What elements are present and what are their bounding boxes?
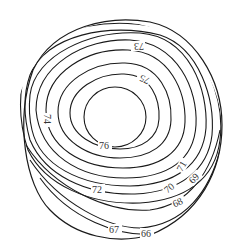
svg-text:67: 67 [109, 224, 119, 235]
contour-73 [46, 50, 185, 168]
svg-text:73: 73 [134, 41, 144, 52]
svg-text:74: 74 [42, 114, 53, 124]
contour-label-71: 71 [174, 156, 191, 174]
contour-72 [36, 40, 196, 178]
svg-text:72: 72 [92, 184, 102, 195]
contour-label-67: 67 [108, 224, 122, 235]
svg-text:66: 66 [141, 228, 151, 239]
contour-diagram: 76 75 73 74 72 71 70 69 68 67 66 [0, 0, 233, 251]
contour-76 [84, 87, 146, 147]
svg-text:76: 76 [99, 140, 109, 151]
contour-label-75: 75 [135, 71, 152, 87]
contour-label-66: 66 [140, 228, 154, 239]
contour-label-72: 72 [91, 184, 105, 195]
contour-68 [26, 130, 220, 210]
disk-boundary [24, 20, 222, 239]
contour-label-73: 73 [131, 41, 145, 52]
contour-74 [58, 63, 171, 158]
contour-label-69: 69 [186, 169, 204, 187]
contour-label-74: 74 [42, 113, 53, 127]
contour-label-76: 76 [98, 140, 112, 151]
